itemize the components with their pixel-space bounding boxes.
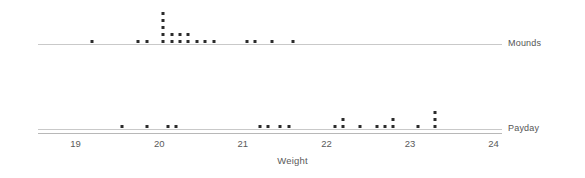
data-point — [162, 33, 165, 36]
x-tick-label: 22 — [321, 138, 332, 149]
data-point — [166, 125, 169, 128]
data-point — [271, 40, 274, 43]
dotplot-chart: Mounds Payday 192021222324 Weight — [0, 0, 585, 178]
x-axis-line — [38, 133, 502, 134]
x-tick-label: 23 — [405, 138, 416, 149]
data-point — [195, 40, 198, 43]
data-point — [434, 118, 437, 121]
data-point — [137, 40, 140, 43]
data-point — [120, 125, 123, 128]
data-point — [434, 125, 437, 128]
series-label-mounds: Mounds — [508, 38, 585, 48]
data-point — [204, 40, 207, 43]
data-point — [162, 40, 165, 43]
data-point — [174, 125, 177, 128]
data-point — [91, 40, 94, 43]
data-point — [287, 125, 290, 128]
data-point — [383, 125, 386, 128]
data-point — [417, 125, 420, 128]
data-point — [187, 33, 190, 36]
data-point — [162, 12, 165, 15]
payday-baseline — [38, 129, 502, 130]
data-point — [179, 33, 182, 36]
data-point — [392, 118, 395, 121]
series-label-payday: Payday — [508, 123, 585, 133]
data-point — [187, 40, 190, 43]
data-point — [342, 118, 345, 121]
data-point — [179, 40, 182, 43]
data-point — [392, 125, 395, 128]
x-tick-label: 20 — [154, 138, 165, 149]
data-point — [254, 40, 257, 43]
data-point — [279, 125, 282, 128]
data-point — [246, 40, 249, 43]
mounds-baseline — [38, 44, 502, 45]
data-point — [333, 125, 336, 128]
data-point — [212, 40, 215, 43]
x-axis-title: Weight — [0, 155, 585, 166]
data-point — [342, 125, 345, 128]
data-point — [162, 26, 165, 29]
data-point — [266, 125, 269, 128]
x-tick-label: 21 — [238, 138, 249, 149]
data-point — [162, 19, 165, 22]
data-point — [145, 125, 148, 128]
data-point — [170, 40, 173, 43]
data-point — [434, 111, 437, 114]
data-point — [375, 125, 378, 128]
data-point — [258, 125, 261, 128]
data-point — [170, 33, 173, 36]
data-point — [145, 40, 148, 43]
data-point — [291, 40, 294, 43]
data-point — [358, 125, 361, 128]
x-tick-label: 24 — [488, 138, 499, 149]
x-tick-label: 19 — [70, 138, 81, 149]
